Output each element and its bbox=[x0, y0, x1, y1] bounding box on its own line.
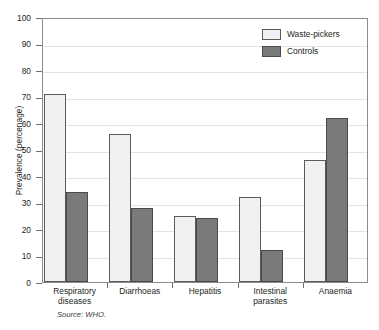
y-tick-label: 80 bbox=[1, 67, 31, 75]
legend: Waste-pickers Controls bbox=[262, 28, 340, 62]
legend-item-controls: Controls bbox=[262, 45, 340, 58]
legend-label: Controls bbox=[287, 47, 318, 55]
y-tick-label: 10 bbox=[1, 252, 31, 260]
legend-label: Waste-pickers bbox=[287, 30, 340, 38]
y-tick-label: 0 bbox=[1, 279, 31, 287]
y-tick-label: 100 bbox=[1, 14, 31, 22]
bar-waste-pickers bbox=[109, 134, 131, 282]
gridline bbox=[43, 99, 367, 100]
gridline bbox=[43, 72, 367, 73]
y-tick-label: 20 bbox=[1, 226, 31, 234]
y-tick-label: 30 bbox=[1, 199, 31, 207]
bar-waste-pickers bbox=[174, 216, 196, 282]
x-tick-label: Hepatitis bbox=[172, 287, 237, 297]
bar-waste-pickers bbox=[304, 160, 326, 282]
x-tick-label: Respiratory diseases bbox=[42, 287, 107, 306]
bar-controls bbox=[196, 218, 218, 282]
bar-chart-figure: Prevalence (percenage) 10090807060504030… bbox=[0, 0, 379, 330]
source-note: Source: WHO. bbox=[57, 311, 106, 319]
y-tick-label: 90 bbox=[1, 40, 31, 48]
dark-swatch-icon bbox=[262, 46, 281, 57]
gridline bbox=[43, 125, 367, 126]
bar-controls bbox=[66, 192, 88, 282]
gridline bbox=[43, 152, 367, 153]
y-tick-label: 60 bbox=[1, 120, 31, 128]
x-tick-label: Diarrhoeas bbox=[107, 287, 172, 297]
light-swatch-icon bbox=[262, 29, 281, 40]
y-tick-label: 40 bbox=[1, 173, 31, 181]
x-tick-label: Intestinal parasites bbox=[238, 287, 303, 306]
legend-item-waste-pickers: Waste-pickers bbox=[262, 28, 340, 41]
bar-controls bbox=[131, 208, 153, 282]
bar-waste-pickers bbox=[44, 94, 66, 282]
bar-controls bbox=[326, 118, 348, 282]
x-tick-label: Anaemia bbox=[303, 287, 368, 297]
bar-waste-pickers bbox=[239, 197, 261, 282]
y-tick-label: 50 bbox=[1, 146, 31, 154]
y-tick-mark bbox=[36, 283, 42, 284]
y-tick-label: 70 bbox=[1, 93, 31, 101]
cropped-title-fragment bbox=[30, 0, 350, 6]
bar-controls bbox=[261, 250, 283, 282]
